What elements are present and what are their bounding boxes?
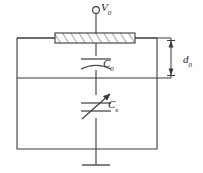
source-voltage-symbol: V [101, 1, 108, 13]
source-voltage-label: V0 [101, 2, 111, 16]
gap-dimension-label: d0 [183, 54, 192, 68]
gap-dimension-symbol: d [183, 53, 189, 65]
variable-capacitor-label: Cx [108, 99, 118, 113]
variable-capacitor-subscript: x [115, 106, 118, 113]
schematic-figure: V0 C0 Cx d0 [0, 0, 203, 173]
gap-dimension-subscript: 0 [189, 61, 192, 68]
source-voltage-subscript: 0 [108, 9, 111, 16]
fixed-capacitor-label: C0 [103, 58, 114, 72]
schematic-canvas [0, 0, 203, 173]
hatched-electrode-plate [55, 33, 135, 43]
outer-body-outline [17, 38, 157, 149]
fixed-capacitor-subscript: 0 [110, 65, 113, 72]
source-terminal-circle-icon [93, 7, 100, 14]
variable-capacitor-cx-symbol [81, 94, 111, 119]
dimension-d0-marker [167, 38, 175, 78]
